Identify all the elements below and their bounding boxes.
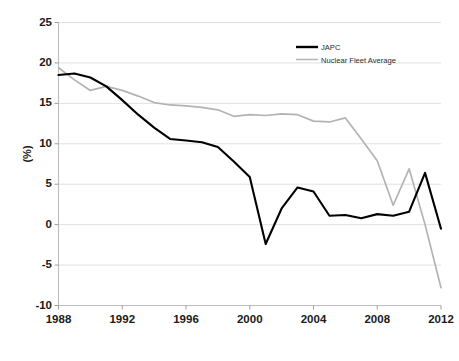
x-tick-marks <box>59 306 442 310</box>
axis-lines <box>59 23 442 306</box>
chart-legend: JAPCNuclear Fleet Average <box>296 43 396 65</box>
y-tick-marks <box>55 23 59 306</box>
data-series-group <box>59 68 442 288</box>
series-line-japc <box>59 73 442 244</box>
gridlines <box>59 23 442 306</box>
legend-label-japc: JAPC <box>321 43 341 52</box>
legend-label-nuclear-fleet-average: Nuclear Fleet Average <box>321 56 396 65</box>
